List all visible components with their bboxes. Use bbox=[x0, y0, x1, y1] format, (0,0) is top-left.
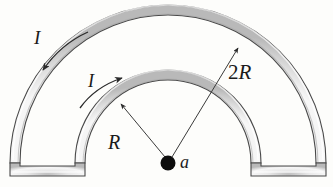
radius-outer-prefix: 2 bbox=[228, 60, 239, 84]
center-point-label: a bbox=[180, 153, 189, 171]
right-straight-connector bbox=[251, 163, 326, 176]
radius-arrow-inner bbox=[121, 104, 165, 157]
current-label-inner: I bbox=[88, 72, 94, 90]
diagram-svg bbox=[0, 0, 333, 187]
radius-outer-symbol: R bbox=[239, 60, 252, 84]
inner-semicircle-conductor bbox=[75, 70, 261, 164]
left-straight-connector bbox=[10, 163, 85, 176]
current-loop-diagram: I I R 2R a bbox=[0, 0, 333, 187]
current-label-outer: I bbox=[34, 28, 40, 47]
outer-semicircle-conductor bbox=[10, 5, 326, 164]
center-point-dot bbox=[161, 156, 176, 171]
radius-label-outer: 2R bbox=[228, 62, 251, 83]
radius-label-inner: R bbox=[108, 132, 120, 152]
